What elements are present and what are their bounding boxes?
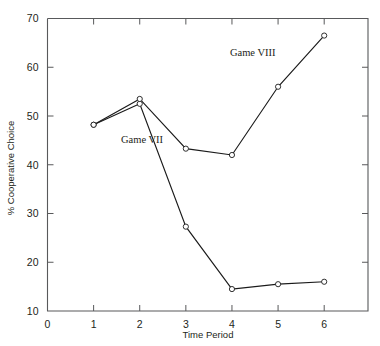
data-point-marker (183, 146, 188, 151)
y-axis-tick-labels: 10203040506070 (27, 12, 39, 317)
x-axis-ticks (94, 19, 325, 312)
series-annotation-label: Game VIII (230, 47, 276, 58)
y-tick-label: 40 (27, 159, 39, 171)
series-annotations: Game VIIGame VIII (121, 47, 276, 145)
data-point-marker (275, 84, 280, 89)
data-point-marker (91, 122, 96, 127)
x-tick-label: 2 (137, 318, 143, 330)
y-tick-label: 30 (27, 207, 39, 219)
x-tick-label: 6 (321, 318, 327, 330)
data-point-marker (229, 152, 234, 157)
y-axis-ticks (48, 67, 369, 262)
data-point-marker (183, 224, 188, 229)
x-tick-label: 1 (91, 318, 97, 330)
y-axis-title: % Cooperative Choice (5, 121, 16, 216)
series-annotation-label: Game VII (121, 134, 164, 145)
data-series-group (91, 33, 327, 292)
data-point-marker (322, 33, 327, 38)
y-tick-label: 60 (27, 61, 39, 73)
x-tick-label: 0 (45, 318, 51, 330)
x-axis-title: Time Period (183, 329, 234, 340)
plot-frame (48, 19, 369, 312)
y-tick-label: 50 (27, 110, 39, 122)
x-tick-label: 5 (275, 318, 281, 330)
line-chart: 10203040506070 0123456 Game VIIGame VIII… (0, 0, 380, 346)
data-point-marker (275, 282, 280, 287)
y-tick-label: 20 (27, 256, 39, 268)
y-tick-label: 10 (27, 305, 39, 317)
chart-figure: 10203040506070 0123456 Game VIIGame VIII… (0, 0, 380, 346)
data-point-marker (229, 286, 234, 291)
data-point-marker (137, 96, 142, 101)
data-point-marker (322, 279, 327, 284)
y-tick-label: 70 (27, 12, 39, 24)
series-line (94, 104, 325, 289)
